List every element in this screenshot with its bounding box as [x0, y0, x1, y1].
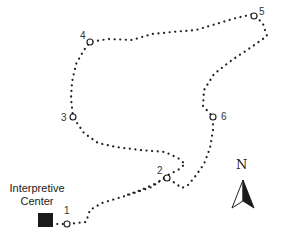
interpretive-center-label: Interpretive Center [7, 182, 67, 208]
stop-label-5: 5 [259, 7, 265, 17]
stop-marker-5[interactable] [251, 13, 257, 19]
trail-path [46, 14, 267, 224]
stop-marker-6[interactable] [210, 114, 216, 120]
label-line-1: Interpretive [7, 182, 67, 195]
interpretive-center-icon [38, 213, 53, 227]
stop-label-3: 3 [61, 113, 67, 123]
stop-marker-3[interactable] [70, 114, 76, 120]
stop-label-4: 4 [80, 31, 86, 41]
stop-marker-4[interactable] [87, 39, 93, 45]
stop-label-6: 6 [221, 112, 227, 122]
label-line-2: Center [7, 195, 67, 208]
north-label: N [236, 157, 247, 172]
north-arrow-icon [232, 180, 254, 208]
stop-label-2: 2 [157, 166, 163, 176]
stop-label-1: 1 [64, 206, 70, 216]
stop-marker-2[interactable] [164, 175, 170, 181]
stop-marker-1[interactable] [64, 221, 70, 227]
